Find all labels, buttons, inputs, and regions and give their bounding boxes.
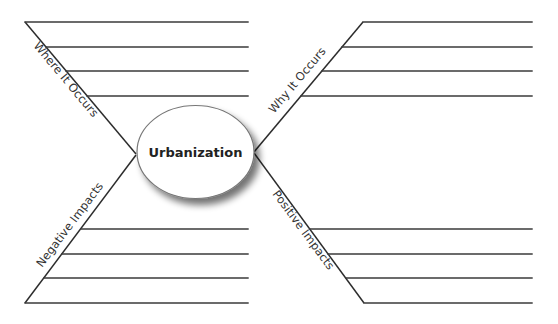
center-node: Urbanization: [137, 106, 254, 199]
spider-map-diagram: Where It Occurs Why It Occurs Negative I…: [0, 0, 558, 324]
branch-positive-impacts: Positive Impacts: [254, 153, 532, 303]
branch-label-negative-impacts: Negative Impacts: [33, 179, 106, 269]
branch-label-why-it-occurs: Why It Occurs: [266, 44, 329, 116]
branch-label-positive-impacts: Positive Impacts: [270, 187, 338, 272]
branch-spoke-line: [254, 22, 363, 152]
branch-label-where-it-occurs: Where It Occurs: [31, 39, 102, 120]
center-label: Urbanization: [149, 145, 243, 160]
branch-why-it-occurs: Why It Occurs: [254, 22, 532, 152]
